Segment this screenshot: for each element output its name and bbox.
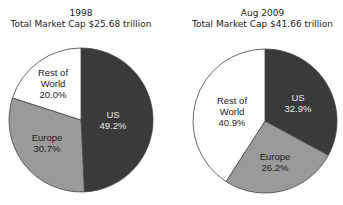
slice-value-us: 32.9% bbox=[285, 103, 312, 114]
slice-label-row-line1: Rest of bbox=[38, 67, 68, 78]
slice-value-europe: 30.7% bbox=[34, 143, 61, 154]
slice-value-europe: 26.2% bbox=[262, 162, 289, 173]
slice-label-us: US bbox=[291, 92, 304, 103]
slice-value-us: 49.2% bbox=[100, 120, 127, 131]
slice-label-europe: Europe bbox=[32, 132, 63, 143]
slice-label-europe: Europe bbox=[260, 151, 291, 162]
slice-label-us: US bbox=[106, 109, 119, 120]
slice-label-row-line1: Rest of bbox=[217, 95, 247, 106]
pie-chart-1998 bbox=[9, 48, 153, 192]
pie-charts: US 49.2% Europe 30.7% Rest of World 20.0… bbox=[0, 0, 343, 205]
slice-value-row: 40.9% bbox=[219, 117, 246, 128]
slice-value-row: 20.0% bbox=[40, 89, 67, 100]
slice-label-row-line2: World bbox=[220, 106, 245, 117]
slice-label-row-line2: World bbox=[41, 78, 66, 89]
